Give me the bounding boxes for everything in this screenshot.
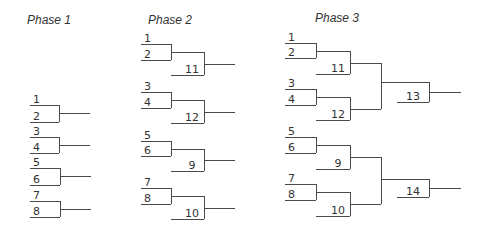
seed-label: 4: [144, 96, 151, 109]
tournament-bracket-diagram: Phase 1 Phase 2 Phase 3 12345678 1211341…: [0, 0, 484, 233]
seed-label: 3: [144, 80, 151, 93]
seed-label: 3: [33, 125, 40, 138]
seed-label: 13: [406, 90, 420, 103]
seed-label: 10: [185, 207, 199, 220]
seed-label: 1: [33, 93, 40, 106]
phase-2-title: Phase 2: [148, 13, 192, 27]
seed-label: 3: [288, 77, 295, 90]
seed-label: 5: [144, 129, 151, 142]
seed-label: 4: [288, 93, 295, 106]
seed-label: 12: [331, 108, 345, 121]
seed-label: 11: [185, 63, 199, 76]
seed-label: 2: [144, 48, 151, 61]
seed-label: 7: [288, 172, 295, 185]
seed-label: 2: [33, 110, 40, 123]
phase-3-bracket: 1211341256978101314: [285, 31, 461, 217]
seed-label: 6: [33, 173, 40, 186]
seed-label: 7: [33, 189, 40, 202]
seed-label: 5: [33, 156, 40, 169]
seed-label: 8: [288, 188, 295, 201]
seed-label: 12: [185, 111, 199, 124]
phase-1-bracket: 12345678: [30, 93, 91, 218]
seed-label: 11: [331, 62, 345, 75]
seed-label: 14: [406, 185, 420, 198]
seed-label: 7: [144, 176, 151, 189]
seed-label: 8: [144, 192, 151, 205]
seed-label: 9: [335, 157, 342, 170]
seed-label: 1: [144, 32, 151, 45]
seed-label: 1: [288, 31, 295, 44]
seed-label: 10: [331, 204, 345, 217]
seed-label: 6: [144, 144, 151, 157]
seed-label: 4: [33, 141, 40, 154]
seed-label: 6: [288, 141, 295, 154]
seed-label: 2: [288, 46, 295, 59]
phase-1-title: Phase 1: [27, 13, 71, 27]
seed-label: 8: [33, 205, 40, 218]
seed-label: 9: [189, 159, 196, 172]
seed-label: 5: [288, 125, 295, 138]
phase-3-title: Phase 3: [315, 11, 359, 25]
phase-2-bracket: 121134125697810: [141, 32, 235, 220]
